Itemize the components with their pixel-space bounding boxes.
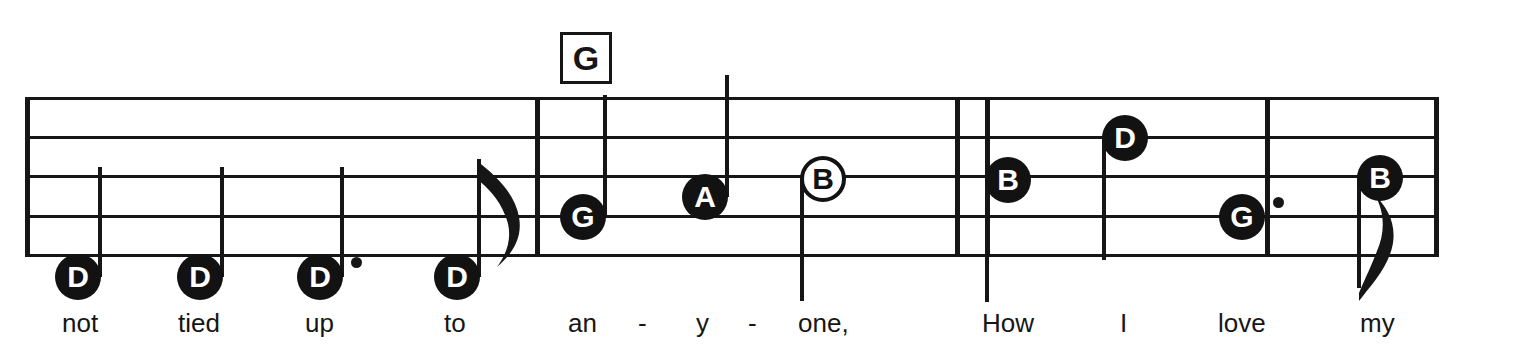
lyric-syllable: - (748, 310, 757, 336)
lyric-syllable: my (1360, 310, 1395, 336)
notehead-a: A (682, 174, 728, 220)
notehead-b: B (1357, 155, 1403, 201)
eighth-note-flag (1355, 193, 1415, 303)
staff-line-3 (25, 175, 1439, 178)
lyric-syllable: to (444, 310, 466, 336)
notehead-g: G (560, 194, 606, 240)
notehead-d: D (1102, 115, 1148, 161)
barline-measure-1-end (535, 97, 540, 257)
lyric-syllable: - (638, 310, 647, 336)
barline-measure-3-end (1265, 97, 1270, 257)
lyric-syllable: I (1120, 310, 1127, 336)
note-stem-up (220, 167, 224, 277)
notehead-d: D (434, 254, 480, 300)
augmentation-dot (351, 257, 362, 268)
note-stem-down (985, 180, 989, 302)
staff-line-5 (25, 254, 1439, 257)
barline-staff-start (25, 97, 30, 257)
lyric-syllable: up (305, 310, 334, 336)
notehead-b: B (800, 156, 846, 202)
lyric-syllable: one, (798, 310, 849, 336)
note-stem-down (800, 179, 804, 301)
staff-line-1 (25, 97, 1439, 100)
lyric-syllable: not (62, 310, 98, 336)
staff-line-2 (25, 136, 1439, 139)
barline-measure-2-end-a (955, 97, 960, 257)
sheet-music-page: G DDDDGABBDGB nottieduptoan-y-one,HowIlo… (0, 0, 1524, 361)
lyric-syllable: tied (178, 310, 220, 336)
lyric-syllable: y (696, 310, 709, 336)
lyric-syllable: How (982, 310, 1034, 336)
note-stem-up (603, 95, 607, 217)
note-stem-up (725, 75, 729, 197)
notehead-d: D (55, 254, 101, 300)
lyric-syllable: an (568, 310, 597, 336)
note-stem-down (1102, 138, 1106, 260)
chord-symbol-g: G (560, 32, 612, 84)
note-stem-up (98, 167, 102, 277)
augmentation-dot (1273, 197, 1284, 208)
note-stem-up (340, 167, 344, 277)
notehead-d: D (297, 254, 343, 300)
lyric-syllable: love (1218, 310, 1266, 336)
eighth-note-flag (475, 159, 535, 279)
barline-staff-end (1434, 97, 1439, 257)
notehead-b: B (985, 157, 1031, 203)
notehead-d: D (177, 254, 223, 300)
notehead-g: G (1219, 194, 1265, 240)
